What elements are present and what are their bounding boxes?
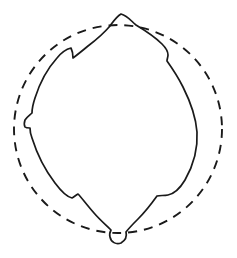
figure-container: Irregular closed outline compared with a… [0,0,237,258]
figure-background [0,0,237,258]
outline-comparison-figure: Irregular closed outline compared with a… [0,0,237,258]
